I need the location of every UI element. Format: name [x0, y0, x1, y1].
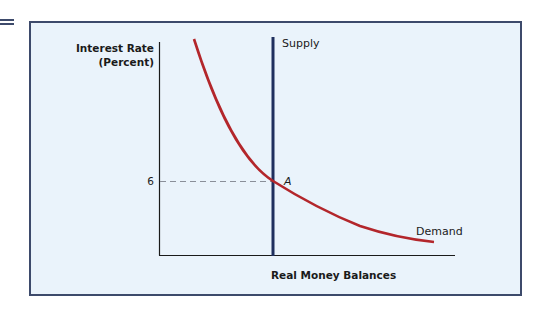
y-tick-6: 6: [147, 175, 154, 187]
demand-label: Demand: [416, 225, 463, 238]
x-axis-label: Real Money Balances: [271, 269, 396, 281]
supply-label: Supply: [282, 37, 320, 50]
point-a-label: A: [283, 175, 292, 188]
chart-plot: Interest Rate (Percent) Real Money Balan…: [0, 0, 548, 316]
y-axis-label-line1: Interest Rate: [76, 42, 154, 54]
y-axis-label-line2: (Percent): [99, 56, 154, 68]
demand-curve: [194, 39, 434, 242]
